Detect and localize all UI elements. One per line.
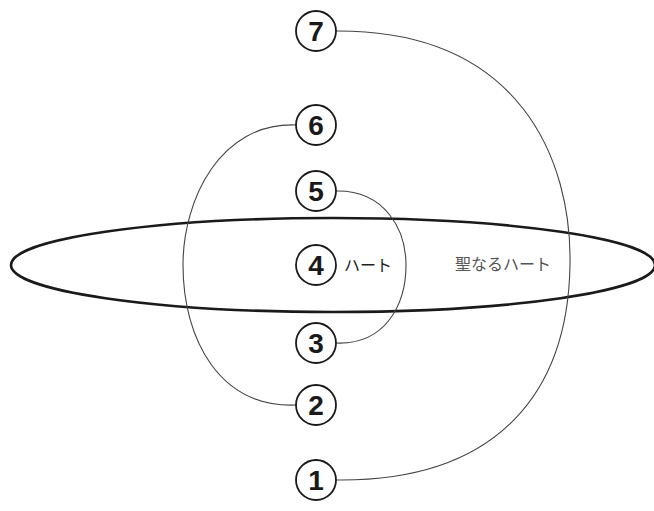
- diagram-canvas: 7 6 5 4 3 2 1 ハート 聖なるハート: [0, 0, 654, 511]
- node-5-number: 5: [308, 176, 324, 207]
- arc-6-to-2: [183, 125, 296, 405]
- node-5: 5: [296, 171, 336, 211]
- node-1: 1: [296, 460, 336, 500]
- node-7: 7: [296, 11, 336, 51]
- node-3: 3: [296, 323, 336, 363]
- node-4-number: 4: [308, 250, 324, 281]
- node-1-number: 1: [308, 465, 324, 496]
- node-2: 2: [296, 385, 336, 425]
- node-6-number: 6: [308, 110, 324, 141]
- node-7-number: 7: [308, 16, 324, 47]
- node-4: 4: [296, 245, 336, 285]
- node-3-number: 3: [308, 328, 324, 359]
- node-2-number: 2: [308, 390, 324, 421]
- node-6: 6: [296, 105, 336, 145]
- heart-label: ハート: [344, 256, 392, 275]
- sacred-heart-label: 聖なるハート: [455, 255, 551, 274]
